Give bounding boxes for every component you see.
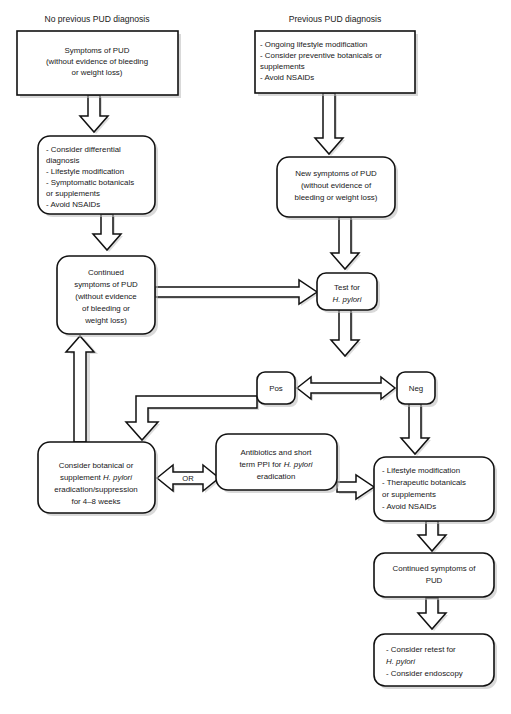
edge-test-to-posneg [331,310,361,358]
node-continued-bottom-line-1: PUD [426,576,443,585]
node-continued-symptoms-of-pud[interactable]: Continued symptoms of PUD (without evide… [57,256,158,337]
node-consider-retest-line-2: - Consider endoscopy [386,669,463,678]
node-test-for-h-pylori[interactable]: Test for H. pylori [317,273,380,313]
node-pos-label: Pos [269,384,283,393]
node-consider-retest-line-1: H. pylori [386,657,415,666]
edge-symptoms-to-differential [80,95,110,134]
node-lifestyle-therapeutic-line-3: - Avoid NSAIDs [382,502,436,511]
node-lifestyle-therapeutic-line-2: or supplements [382,490,436,499]
node-new-symptoms-line-1: (without evidence of [301,181,372,190]
node-ongoing-lifestyle-line-2: supplements [260,62,305,71]
node-consider-differential-line-1: diagnosis [46,156,79,165]
edge-new-symptoms-to-test [331,217,361,271]
edge-continued-bottom-to-retest [418,598,448,631]
node-test-line-0: Test for [334,283,360,292]
node-lifestyle-therapeutic-line-0: - Lifestyle modification [382,466,460,475]
node-symptoms-of-pud-line-0: Symptoms of PUD [65,46,130,55]
node-ongoing-lifestyle-line-0: - Ongoing lifestyle modification [260,40,367,49]
edge-pos-neg-bidirectional [297,377,397,401]
node-consider-retest[interactable]: - Consider retest for H. pylori - Consid… [374,634,497,689]
node-antibiotics-line-2: eradication [257,472,296,481]
node-consider-differential-line-3: - Symptomatic botanicals [46,178,134,187]
node-continued-symptoms-line-2: (without evidence [75,292,137,301]
node-test-line-1: H. pylori [333,295,362,304]
flowchart-svg: No previous PUD diagnosis Previous PUD d… [0,0,511,714]
edge-continued-to-test [155,280,319,306]
node-lifestyle-therapeutic-line-1: - Therapeutic botanicals [382,478,466,487]
node-continued-symptoms-line-0: Continued [88,268,124,277]
node-ongoing-lifestyle-line-1: - Consider preventive botanicals or [260,51,382,60]
node-pos[interactable]: Pos [257,372,298,407]
edge-differential-to-continued [93,214,123,252]
node-consider-botanical-line-3: for 4–8 weeks [71,497,120,506]
column-title-left: No previous PUD diagnosis [44,14,149,24]
node-consider-differential-line-0: - Consider differential [46,145,121,154]
node-consider-botanical-line-1: supplement H. pylori [60,473,132,482]
or-connector-label: OR [182,474,194,483]
node-continued-bottom-line-0: Continued symptoms of [393,564,477,573]
node-consider-retest-line-0: - Consider retest for [386,645,456,654]
node-consider-differential-line-4: or supplements [46,189,100,198]
node-antibiotics-line-0: Antibiotics and short [240,448,312,457]
node-continued-symptoms-line-1: symptoms of PUD [74,280,138,289]
node-lifestyle-therapeutic[interactable]: - Lifestyle modification - Therapeutic b… [374,457,497,524]
edge-antibiotics-to-lifestyle [337,475,376,501]
node-continued-symptoms-line-3: of bleeding or [82,304,130,313]
node-consider-differential-line-2: - Lifestyle modification [46,167,124,176]
edge-neg-to-lifestyle [401,404,431,456]
node-neg[interactable]: Neg [397,372,438,407]
node-consider-botanical-line-2: eradication/suppression [54,485,137,494]
flowchart-canvas: No previous PUD diagnosis Previous PUD d… [0,0,511,714]
node-continued-symptoms-line-4: weight loss) [84,316,127,325]
node-new-symptoms-of-pud[interactable]: New symptoms of PUD (without evidence of… [277,157,398,220]
node-new-symptoms-line-2: bleeding or weight loss) [295,193,378,202]
node-consider-differential[interactable]: - Consider differential diagnosis - Life… [38,136,158,217]
node-antibiotics-line-1: term PPI for H. pylori [239,460,312,469]
edge-lifestyle-to-continued-bottom [418,521,448,553]
node-new-symptoms-line-0: New symptoms of PUD [295,169,377,178]
node-consider-botanical-line-0: Consider botanical or [59,461,134,470]
column-title-right: Previous PUD diagnosis [289,14,382,24]
node-antibiotics-ppi[interactable]: Antibiotics and short term PPI for H. py… [216,434,340,493]
node-consider-botanical[interactable]: Consider botanical or supplement H. pylo… [38,442,158,516]
edge-ongoing-to-new-symptoms [315,93,345,156]
edge-botanical-to-continued-up [66,336,98,444]
node-ongoing-lifestyle-line-3: - Avoid NSAIDs [260,73,314,82]
node-symptoms-of-pud-line-1: (without evidence of bleeding [46,57,148,66]
node-symptoms-of-pud[interactable]: Symptoms of PUD (without evidence of ble… [17,31,181,98]
node-ongoing-lifestyle[interactable]: - Ongoing lifestyle modification - Consi… [255,31,418,96]
node-neg-label: Neg [409,384,423,393]
node-continued-symptoms-pud-bottom[interactable]: Continued symptoms of PUD [374,553,497,600]
node-consider-differential-line-5: - Avoid NSAIDs [46,200,100,209]
node-symptoms-of-pud-line-2: or weight loss) [72,68,123,77]
